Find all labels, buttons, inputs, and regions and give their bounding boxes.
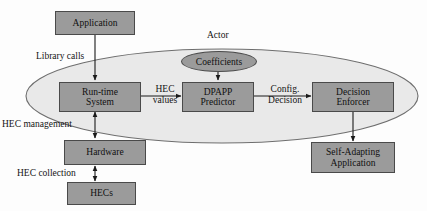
node-runtime-system-line2: System [86,97,114,107]
edge-label-library-calls-line1: Library calls [36,51,84,62]
edge-label-config-decision-line2: Decision [260,95,310,106]
actor-label: Actor [207,30,229,40]
node-hardware-line1: Hardware [86,147,123,157]
edge-label-config-decision-line1: Config. [260,84,310,95]
edge-label-library-calls: Library calls [36,51,84,62]
node-decision-enforcer-line2: Enforcer [336,97,369,107]
node-runtime-system[interactable]: Run-time System [59,82,141,112]
edge-label-hec-collection: HEC collection [17,168,76,179]
diagram-canvas: Actor Application Run-time System Coeffi… [0,0,427,211]
node-decision-enforcer[interactable]: Decision Enforcer [312,82,394,112]
node-dpapp-predictor-line2: Predictor [201,97,236,107]
node-self-adapting-application[interactable]: Self-Adapting Application [311,142,395,173]
node-self-adapting-application-line1: Self-Adapting [326,147,380,157]
node-dpapp-predictor-line1: DPAPP [204,87,233,97]
node-self-adapting-application-line2: Application [331,158,376,168]
edge-label-config-decision: Config. Decision [260,84,310,105]
edge-label-hec-values: HEC values [148,84,182,105]
node-application-line1: Application [73,18,118,28]
node-hecs[interactable]: HECs [67,182,136,205]
edge-label-hec-management-line1: HEC management [2,119,72,130]
edge-label-hec-values-line2: values [148,95,182,106]
node-coefficients[interactable]: Coefficients [181,51,257,72]
node-application[interactable]: Application [55,11,135,35]
node-hardware[interactable]: Hardware [64,140,146,165]
edge-label-hec-collection-line1: HEC collection [17,168,76,179]
edge-label-hec-management: HEC management [2,119,72,130]
node-hecs-line1: HECs [90,188,113,198]
node-decision-enforcer-line1: Decision [336,87,370,97]
node-runtime-system-line1: Run-time [82,87,118,97]
node-dpapp-predictor[interactable]: DPAPP Predictor [182,82,254,112]
edge-label-hec-values-line1: HEC [148,84,182,95]
node-coefficients-line1: Coefficients [196,57,242,67]
